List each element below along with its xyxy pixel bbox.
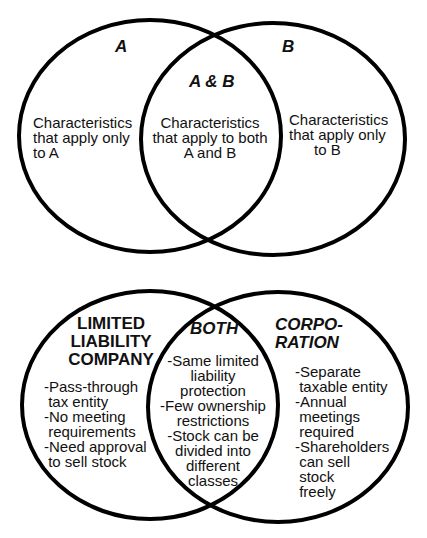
intersection-description: Characteristics that apply to both A and…: [150, 115, 270, 160]
set-b-description: Characteristics that apply only to B: [289, 112, 388, 157]
corporation-title: CORPO- RATION: [275, 316, 343, 352]
set-b-title: B: [282, 38, 294, 56]
shared-characteristics: -Same limited liability protection -Few …: [160, 353, 266, 488]
intersection-title: A & B: [189, 73, 235, 91]
llc-title: LIMITED LIABILITY COMPANY: [66, 315, 156, 369]
corporation-characteristics: -Separate taxable entity -Annual meeting…: [295, 364, 389, 499]
set-a-title: A: [115, 38, 127, 56]
both-title: BOTH: [190, 320, 238, 338]
llc-characteristics: -Pass-through tax entity -No meeting req…: [44, 379, 147, 469]
set-a-description: Characteristics that apply only to A: [33, 115, 132, 160]
